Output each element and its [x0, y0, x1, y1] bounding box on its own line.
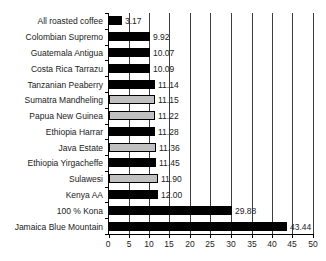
bar: [109, 64, 150, 73]
x-tick-label: 15: [164, 240, 173, 249]
category-label: Colombian Supremo: [26, 33, 103, 42]
bar: [109, 143, 156, 152]
category-label: Kenya AA: [66, 191, 103, 200]
bar-value-label: 29.88: [235, 207, 256, 216]
bar: [109, 127, 155, 136]
gridline: [190, 13, 191, 234]
bar-value-label: 11.15: [158, 96, 179, 105]
bar: [109, 111, 155, 120]
category-label: Sumatra Mandheling: [25, 96, 103, 105]
bar: [109, 174, 158, 183]
bar-value-label: 11.90: [161, 175, 182, 184]
category-label: Sulawesi: [69, 175, 103, 184]
bar: [109, 222, 287, 231]
x-axis-tick: [149, 234, 150, 238]
y-axis-tick: [105, 13, 108, 14]
bar: [109, 48, 150, 57]
category-label: Tanzanian Peaberry: [27, 80, 103, 89]
gridline: [292, 13, 293, 234]
gridline: [272, 13, 273, 234]
bar-value-label: 43.44: [290, 222, 311, 231]
bar-value-label: 11.45: [159, 159, 180, 168]
x-axis-tick: [231, 234, 232, 238]
x-axis-tick: [313, 234, 314, 238]
x-axis-tick: [210, 234, 211, 238]
gridline: [231, 13, 232, 234]
x-tick-label: 30: [226, 240, 235, 249]
y-axis-tick: [105, 60, 108, 61]
bar-value-label: 12.00: [161, 191, 182, 200]
y-axis-tick: [105, 139, 108, 140]
category-label: All roasted coffee: [37, 17, 103, 26]
y-axis-tick: [105, 187, 108, 188]
coffee-caffeine-bar-chart: 3.179.9210.0710.0911.1411.1511.2211.2811…: [0, 0, 326, 261]
x-axis-tick: [252, 234, 253, 238]
category-label: 100 % Kona: [57, 207, 103, 216]
bar-value-label: 11.14: [158, 80, 179, 89]
bar-value-label: 10.09: [153, 65, 174, 74]
bar: [109, 16, 122, 25]
x-axis-tick: [169, 234, 170, 238]
bar: [109, 206, 232, 215]
y-axis-tick: [105, 92, 108, 93]
y-axis-tick: [105, 155, 108, 156]
bar: [109, 32, 150, 41]
y-axis-tick: [105, 29, 108, 30]
gridline: [149, 13, 150, 234]
x-tick-label: 40: [267, 240, 276, 249]
y-axis-tick: [105, 234, 108, 235]
gridline: [313, 13, 314, 234]
category-label: Ethiopia Yirgacheffe: [28, 159, 103, 168]
x-tick-label: 50: [308, 240, 317, 249]
bar-value-label: 11.22: [158, 112, 179, 121]
y-axis-tick: [105, 171, 108, 172]
x-axis-tick: [190, 234, 191, 238]
bar-value-label: 3.17: [125, 17, 142, 26]
gridline: [169, 13, 170, 234]
y-axis-tick: [105, 76, 108, 77]
bar-value-label: 10.07: [153, 49, 174, 58]
y-axis-tick: [105, 124, 108, 125]
gridline: [252, 13, 253, 234]
gridline: [129, 13, 130, 234]
x-axis-tick: [109, 234, 110, 238]
x-tick-label: 25: [205, 240, 214, 249]
bar: [109, 190, 158, 199]
category-label: Jamaica Blue Mountain: [15, 222, 103, 231]
bar-value-label: 11.28: [158, 128, 179, 137]
category-label: Papua New Guinea: [29, 112, 103, 121]
bar: [109, 80, 155, 89]
x-axis-tick: [129, 234, 130, 238]
y-axis-tick: [105, 202, 108, 203]
bar-value-label: 11.36: [159, 143, 180, 152]
x-tick-label: 10: [144, 240, 153, 249]
bar: [109, 158, 156, 167]
x-axis-tick: [272, 234, 273, 238]
x-tick-label: 20: [185, 240, 194, 249]
y-axis-tick: [105, 45, 108, 46]
plot-area: 3.179.9210.0710.0911.1411.1511.2211.2811…: [108, 13, 314, 235]
y-axis-tick: [105, 108, 108, 109]
category-label: Costa Rica Tarrazu: [31, 65, 103, 74]
category-label: Guatemala Antigua: [31, 49, 103, 58]
x-tick-label: 5: [127, 240, 132, 249]
category-label: Java Estate: [59, 143, 103, 152]
x-tick-label: 0: [106, 240, 111, 249]
gridline: [210, 13, 211, 234]
x-tick-label: 45: [287, 240, 296, 249]
x-axis-tick: [292, 234, 293, 238]
bar: [109, 95, 155, 104]
y-axis-tick: [105, 218, 108, 219]
category-label: Ethiopia Harrar: [46, 128, 103, 137]
x-tick-label: 35: [247, 240, 256, 249]
bar-value-label: 9.92: [153, 33, 170, 42]
